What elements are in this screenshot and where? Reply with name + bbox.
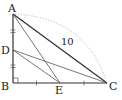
segment-ae (13, 14, 60, 83)
label-e: E (55, 84, 63, 97)
label-b: B (1, 80, 9, 93)
segment-dc (13, 50, 107, 83)
right-angle-mark (13, 78, 18, 83)
segment-de (13, 50, 60, 83)
segment-ac (13, 14, 107, 83)
label-a: A (7, 2, 17, 15)
label-c: C (109, 80, 117, 93)
geometry-diagram: A D B E C 10 (0, 0, 122, 100)
length-arc (15, 14, 106, 80)
label-d: D (1, 44, 10, 57)
length-label-ac: 10 (61, 36, 74, 47)
triangle-figure: A D B E C 10 (0, 0, 122, 100)
